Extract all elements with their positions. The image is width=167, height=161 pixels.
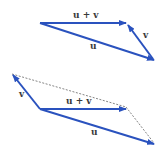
bottom-parallelogram-diagram: u + v u v xyxy=(12,74,154,144)
top-u-plus-v-label: u + v xyxy=(73,10,99,20)
bottom-v-arrow xyxy=(13,75,40,109)
vector-addition-diagram: u + v u v u + v u v xyxy=(0,0,167,161)
bottom-v-label: v xyxy=(18,89,25,99)
top-v-arrow xyxy=(128,25,153,59)
bottom-u-label: u xyxy=(91,127,98,137)
top-u-arrow xyxy=(40,23,154,60)
top-triangle-diagram: u + v u v xyxy=(40,10,154,60)
bottom-u-plus-v-label: u + v xyxy=(66,96,92,106)
top-v-label: v xyxy=(142,30,149,40)
top-u-label: u xyxy=(90,41,97,51)
